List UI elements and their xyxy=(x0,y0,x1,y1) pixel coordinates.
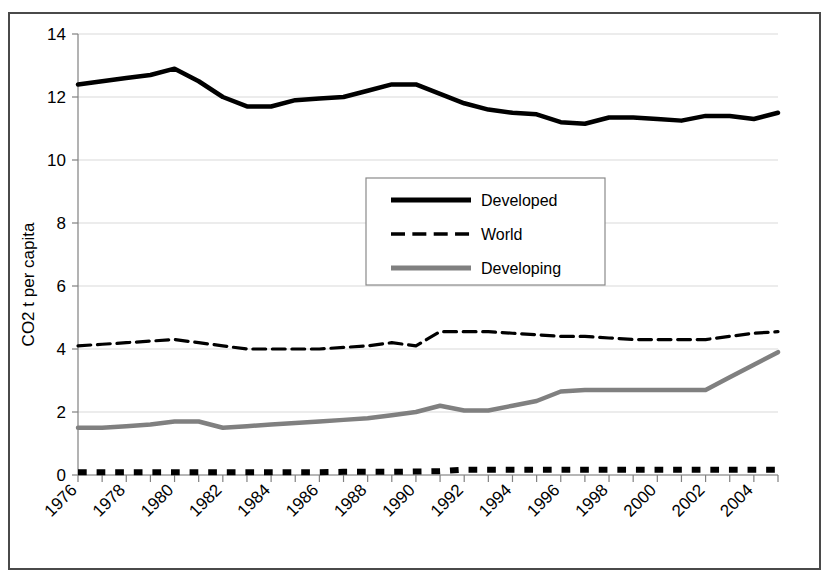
x-tick-label: 2000 xyxy=(620,480,660,520)
x-tick-label: 1992 xyxy=(427,480,467,520)
y-tick-label: 12 xyxy=(47,88,66,107)
x-tick-label: 1982 xyxy=(185,480,225,520)
series-line-unlabeled-3 xyxy=(78,470,778,473)
chart-page: 02468101214 1976197819801982198419861988… xyxy=(0,0,833,588)
legend-label-world: World xyxy=(481,226,523,243)
y-axis-title-text: CO2 t per capita xyxy=(19,222,38,346)
y-tick-label: 6 xyxy=(57,277,66,296)
x-tick-label: 2004 xyxy=(717,480,757,520)
x-tick-label: 1998 xyxy=(572,480,612,520)
x-axis-tick-labels: 1976197819801982198419861988199019921994… xyxy=(41,480,757,520)
x-tick-label: 1978 xyxy=(89,480,129,520)
x-tick-label: 1984 xyxy=(234,480,274,520)
x-tick-label: 1994 xyxy=(475,480,515,520)
x-tick-label: 1990 xyxy=(379,480,419,520)
legend-label-developing: Developing xyxy=(481,260,561,277)
chart-legend: DevelopedWorldDeveloping xyxy=(366,178,605,285)
x-tick-label: 1976 xyxy=(41,480,81,520)
y-tick-label: 2 xyxy=(57,403,66,422)
y-tick-label: 10 xyxy=(47,151,66,170)
y-axis-tick-labels: 02468101214 xyxy=(47,25,66,485)
series-line-developing xyxy=(78,352,778,428)
line-chart: 02468101214 1976197819801982198419861988… xyxy=(0,0,833,588)
series-line-world xyxy=(78,332,778,349)
x-tick-label: 1988 xyxy=(330,480,370,520)
legend-label-developed: Developed xyxy=(481,192,558,209)
x-tick-label: 2002 xyxy=(668,480,708,520)
y-tick-label: 8 xyxy=(57,214,66,233)
x-tick-label: 1980 xyxy=(137,480,177,520)
x-axis-ticks xyxy=(78,475,778,482)
series-line-developed xyxy=(78,69,778,124)
x-tick-label: 1986 xyxy=(282,480,322,520)
y-tick-label: 4 xyxy=(57,340,66,359)
y-tick-label: 14 xyxy=(47,25,66,44)
x-tick-label: 1996 xyxy=(523,480,563,520)
y-axis-title: CO2 t per capita xyxy=(19,222,38,346)
